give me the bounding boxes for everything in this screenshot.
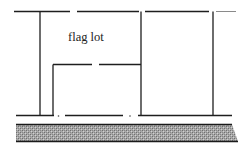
street: [16, 125, 238, 142]
bottom-boundary: [16, 115, 232, 117]
flag-lot-label: flag lot: [68, 30, 104, 44]
flag-lot-diagram: flag lot: [0, 0, 249, 150]
street-fill: [16, 125, 238, 142]
